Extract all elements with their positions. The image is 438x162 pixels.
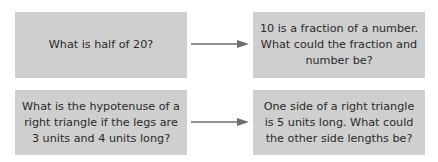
- open-question-text-1: 10 is a fraction of a number. What could…: [259, 21, 419, 69]
- right-arrow-icon: [191, 39, 249, 49]
- open-question-box-2: One side of a right triangle is 5 units …: [253, 90, 425, 155]
- closed-question-box-1: What is half of 20?: [15, 12, 187, 78]
- closed-question-box-2: What is the hypotenuse of a right triang…: [15, 90, 187, 155]
- open-question-text-2: One side of a right triangle is 5 units …: [259, 99, 419, 147]
- closed-question-text-2: What is the hypotenuse of a right triang…: [21, 99, 181, 147]
- right-arrow-icon: [191, 117, 249, 127]
- closed-question-text-1: What is half of 20?: [49, 37, 154, 53]
- open-question-box-1: 10 is a fraction of a number. What could…: [253, 12, 425, 78]
